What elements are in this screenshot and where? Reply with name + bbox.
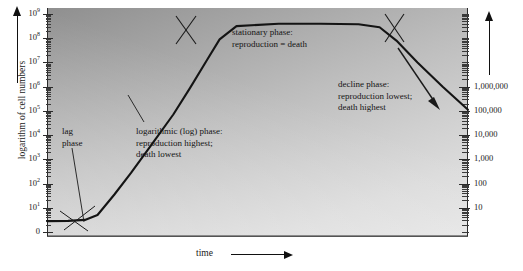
annotation-stationary-phase: stationary phase: reproduction = death: [232, 27, 307, 50]
growth-curve-path: [47, 24, 468, 221]
annotation-log-phase: logarithmic (log) phase: reproduction hi…: [136, 126, 222, 161]
log-phase-line-2: reproduction highest;: [136, 138, 222, 150]
decline-phase-arrow-head-icon: [428, 97, 440, 110]
log-phase-leader-line: [128, 95, 144, 122]
log-phase-line-1: logarithmic (log) phase:: [136, 126, 222, 138]
stationary-phase-line-2: reproduction = death: [232, 39, 307, 51]
lag-phase-leader-line: [72, 148, 84, 222]
decline-phase-line-2: reproduction lowest;: [338, 91, 412, 103]
annotation-decline-phase: decline phase: reproduction lowest; deat…: [338, 79, 412, 114]
annotation-lag-phase: lag phase: [62, 125, 83, 149]
lag-phase-line-1: lag: [62, 125, 83, 137]
decline-phase-line-3: death highest: [338, 102, 412, 114]
lag-phase-line-2: phase: [62, 137, 83, 149]
log-phase-line-3: death lowest: [136, 149, 222, 161]
growth-curve-figure: logarithm of cell numbers 10910810710610…: [0, 0, 523, 271]
stationary-phase-line-1: stationary phase:: [232, 27, 307, 39]
decline-phase-line-1: decline phase:: [338, 79, 412, 91]
